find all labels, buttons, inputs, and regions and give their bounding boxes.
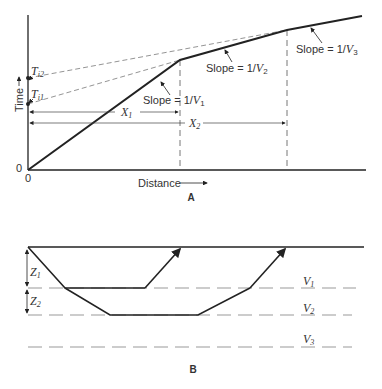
ray-2-emergent-arrow-icon (250, 249, 285, 288)
x1-dimension: X1 (30, 105, 178, 120)
origin-y-label: 0 (16, 162, 22, 174)
ray-path-layer-2 (28, 247, 145, 288)
v3-label: V3 (303, 332, 314, 347)
ray-path-layer-3 (65, 288, 250, 315)
time-axis-label: Time (13, 88, 25, 112)
origin-x-label: 0 (25, 172, 31, 184)
panel-a-travel-time-plot: Ti2 Ti1 Time 0 0 Distance X1 X2 Slope = … (13, 15, 366, 203)
x2-label: X2 (188, 116, 200, 131)
z1-dimension: Z1 (27, 250, 41, 286)
v1-label: V1 (303, 274, 314, 289)
ray-1-emergent-arrow-icon (145, 249, 180, 288)
panel-b-ray-path-section: Z1 Z2 V1 V2 V3 B (27, 247, 364, 375)
svg-text:Z2: Z2 (30, 294, 41, 309)
ti2-label: Ti2 (31, 64, 44, 79)
ti1-label: Ti1 (31, 87, 44, 102)
slope-v3-annotation: Slope = 1/V3 (296, 28, 358, 57)
slope-v2-annotation: Slope = 1/V2 (206, 50, 268, 76)
figure: Ti2 Ti1 Time 0 0 Distance X1 X2 Slope = … (0, 0, 382, 389)
svg-text:Slope = 1/V1: Slope = 1/V1 (143, 93, 205, 108)
svg-text:Slope = 1/V2: Slope = 1/V2 (206, 61, 268, 76)
svg-text:Slope = 1/V3: Slope = 1/V3 (296, 42, 358, 57)
panel-b-label: B (189, 364, 196, 375)
distance-axis-label: Distance (138, 177, 181, 189)
v2-label: V2 (303, 301, 314, 316)
x1-label: X1 (120, 105, 132, 120)
z2-dimension: Z2 (27, 290, 41, 313)
svg-text:Z1: Z1 (30, 265, 41, 280)
slope-v1-annotation: Slope = 1/V1 (143, 82, 205, 108)
x2-dimension: X2 (30, 116, 285, 131)
panel-a-label: A (187, 192, 194, 203)
